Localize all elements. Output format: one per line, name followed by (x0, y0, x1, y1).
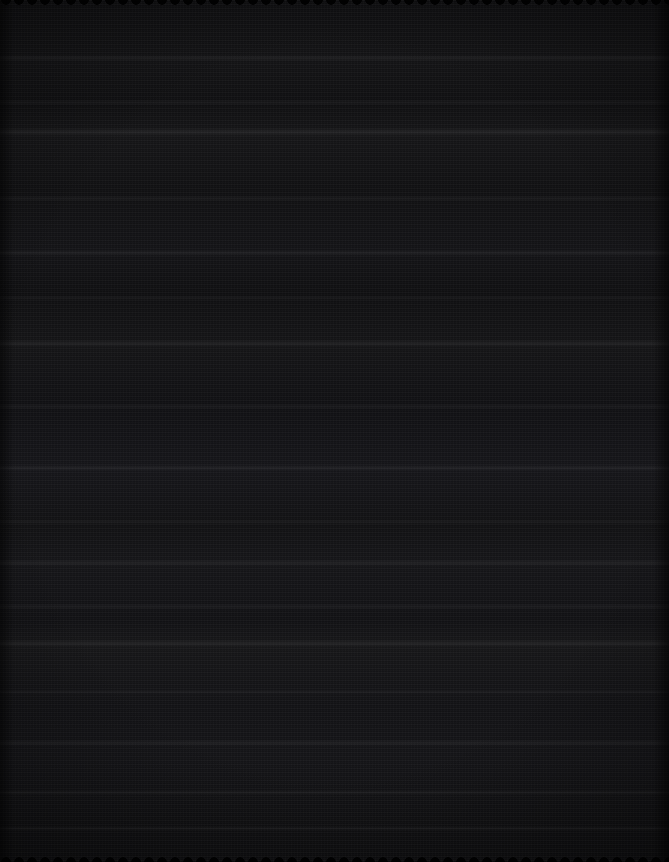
band-16 (0, 790, 669, 795)
band-8 (0, 404, 669, 409)
top-perforation-strip (0, 0, 669, 8)
band-12 (0, 604, 669, 609)
scan-canvas (0, 0, 669, 862)
band-17 (0, 826, 669, 831)
band-1 (0, 55, 669, 61)
band-9 (0, 465, 669, 471)
scanline-texture-overlay (0, 0, 669, 862)
band-10 (0, 520, 669, 524)
band-7 (0, 340, 669, 347)
band-13 (0, 640, 669, 647)
left-edge-vignette (0, 0, 14, 862)
band-4 (0, 196, 669, 201)
band-15 (0, 740, 669, 746)
band-14 (0, 690, 669, 694)
right-edge-vignette (653, 0, 669, 862)
corner-vignette (0, 0, 669, 862)
band-3 (0, 128, 669, 136)
band-5 (0, 250, 669, 256)
band-11 (0, 560, 669, 566)
vertical-grain-overlay (0, 0, 669, 862)
band-6 (0, 296, 669, 300)
bottom-perforation-strip (0, 854, 669, 862)
band-2 (0, 100, 669, 105)
